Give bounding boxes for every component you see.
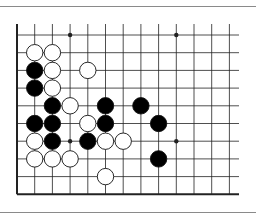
white-stone: [44, 80, 60, 96]
black-stone: [150, 115, 166, 131]
white-stone: [115, 133, 131, 149]
white-stone: [44, 62, 60, 78]
star-point: [68, 139, 72, 143]
white-stone: [27, 45, 43, 61]
white-stone: [44, 151, 60, 167]
bottom-separator: [0, 212, 256, 213]
black-stone: [44, 98, 60, 114]
white-stone: [62, 98, 78, 114]
black-stone: [150, 151, 166, 167]
white-stone: [80, 62, 96, 78]
black-stone: [27, 80, 43, 96]
black-stone: [27, 115, 43, 131]
star-point: [174, 139, 178, 143]
black-stone: [133, 98, 149, 114]
white-stone: [44, 45, 60, 61]
white-stone: [62, 151, 78, 167]
black-stone: [97, 98, 113, 114]
black-stone: [80, 133, 96, 149]
black-stone: [44, 115, 60, 131]
star-point: [174, 33, 178, 37]
star-point: [68, 33, 72, 37]
white-stone: [27, 151, 43, 167]
go-board: [0, 0, 256, 215]
white-stone: [97, 168, 113, 184]
white-stone: [80, 115, 96, 131]
black-stone: [44, 133, 60, 149]
black-stone: [27, 62, 43, 78]
white-stone: [97, 133, 113, 149]
black-stone: [97, 115, 113, 131]
white-stone: [27, 133, 43, 149]
